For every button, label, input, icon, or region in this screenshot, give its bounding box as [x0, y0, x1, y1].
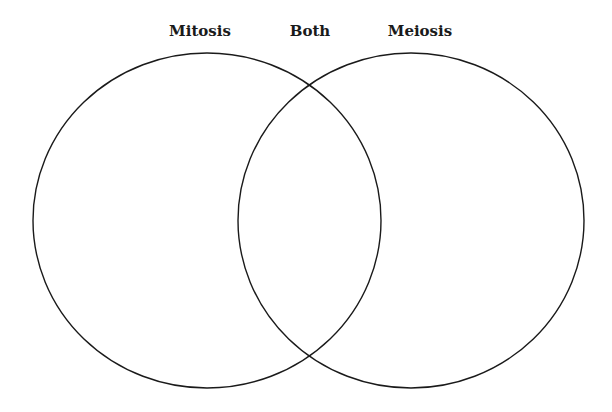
mitosis-label: Mitosis	[169, 21, 231, 41]
venn-diagram	[0, 0, 612, 412]
both-label: Both	[290, 21, 331, 41]
mitosis-circle	[33, 53, 381, 388]
meiosis-circle	[238, 53, 584, 388]
meiosis-label: Meiosis	[388, 21, 452, 41]
